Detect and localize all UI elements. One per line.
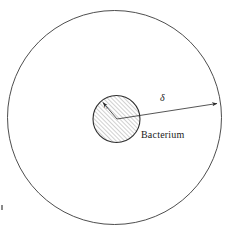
stray-edge-mark (1, 205, 3, 210)
inner-radius-label: r₀ (104, 104, 108, 109)
diffusion-layer-diagram: Bacterium δ r₀ (0, 0, 235, 238)
diagram-canvas (0, 0, 235, 238)
bacterium-label: Bacterium (141, 129, 184, 140)
delta-label: δ (160, 92, 165, 103)
